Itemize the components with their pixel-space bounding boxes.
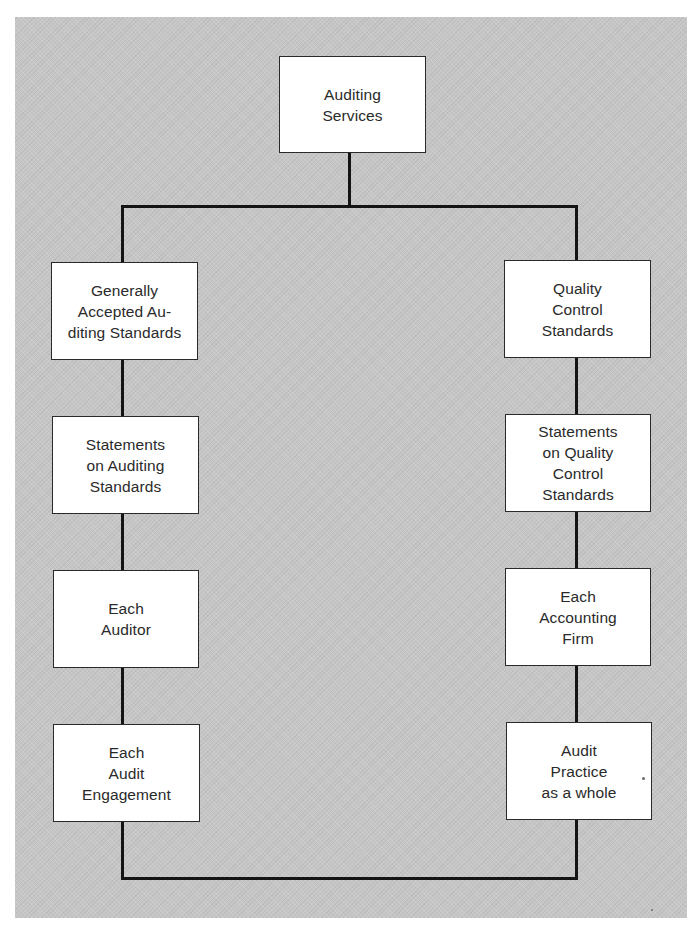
node-label: Each Audit Engagement bbox=[82, 742, 171, 805]
node-quality-control-standards: Quality Control Standards bbox=[504, 260, 651, 358]
connector-bottom-bar bbox=[121, 877, 578, 880]
node-generally-accepted-auditing-standards: Generally Accepted Au- diting Standards bbox=[51, 262, 198, 360]
node-label: Each Auditor bbox=[101, 598, 151, 640]
node-audit-practice-as-a-whole: Audit Practice as a whole bbox=[506, 722, 652, 820]
node-label: Audit Practice as a whole bbox=[541, 740, 616, 803]
scan-speck bbox=[651, 909, 653, 911]
node-each-auditor: Each Auditor bbox=[53, 570, 199, 668]
connector-root-down bbox=[348, 151, 351, 208]
node-label: Auditing Services bbox=[322, 84, 382, 126]
connector-top-bar bbox=[121, 205, 578, 208]
node-label: Generally Accepted Au- diting Standards bbox=[68, 280, 182, 343]
node-each-audit-engagement: Each Audit Engagement bbox=[53, 724, 200, 822]
scan-speck bbox=[642, 777, 645, 780]
node-label: Statements on Quality Control Standards bbox=[538, 421, 617, 505]
node-label: Quality Control Standards bbox=[542, 278, 614, 341]
node-label: Statements on Auditing Standards bbox=[86, 434, 165, 497]
node-statements-on-auditing-standards: Statements on Auditing Standards bbox=[52, 416, 199, 514]
node-auditing-services: Auditing Services bbox=[279, 56, 426, 153]
node-label: Each Accounting Firm bbox=[539, 586, 617, 649]
node-each-accounting-firm: Each Accounting Firm bbox=[505, 568, 651, 666]
node-statements-on-quality-control-standards: Statements on Quality Control Standards bbox=[505, 414, 651, 512]
